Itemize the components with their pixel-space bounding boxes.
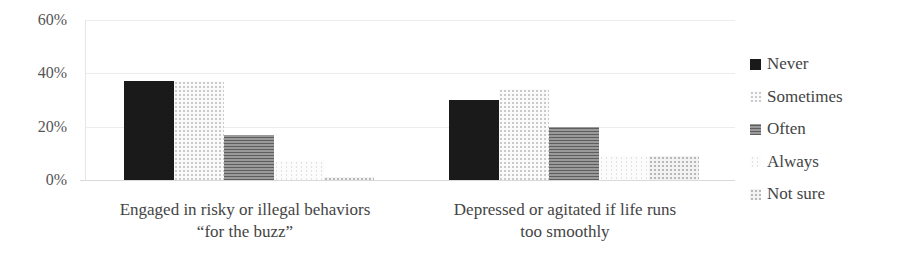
bar-always-group-2 xyxy=(599,156,649,180)
bar-often-group-2 xyxy=(549,127,599,180)
legend-label: Always xyxy=(767,152,819,172)
legend: Never Sometimes Often Always Not sure xyxy=(750,48,843,211)
bar-sometimes-group-1 xyxy=(174,81,224,180)
gridline-40 xyxy=(85,73,735,74)
x-category-label-1-line2: “for the buzz” xyxy=(80,221,410,243)
legend-item-not-sure: Not sure xyxy=(750,178,843,211)
legend-label: Never xyxy=(767,54,809,74)
x-category-label-2-line2: too smoothly xyxy=(400,221,730,243)
y-tick-0: 0% xyxy=(7,172,67,188)
x-category-label-1: Engaged in risky or illegal behaviors “f… xyxy=(80,199,410,243)
gridline-60 xyxy=(85,20,735,21)
x-category-label-2-line1: Depressed or agitated if life runs xyxy=(400,199,730,221)
legend-item-sometimes: Sometimes xyxy=(750,81,843,114)
legend-label: Not sure xyxy=(767,184,825,204)
x-category-label-1-line1: Engaged in risky or illegal behaviors xyxy=(80,199,410,221)
legend-swatch-sometimes xyxy=(750,91,761,102)
legend-item-never: Never xyxy=(750,48,843,81)
legend-item-often: Often xyxy=(750,113,843,146)
x-category-label-2: Depressed or agitated if life runs too s… xyxy=(400,199,730,243)
legend-swatch-always xyxy=(750,156,761,167)
y-tick-20: 20% xyxy=(7,119,67,135)
bar-always-group-1 xyxy=(274,161,324,180)
bar-sometimes-group-2 xyxy=(499,89,549,180)
y-tick-60: 60% xyxy=(7,12,67,28)
bar-not-sure-group-1 xyxy=(324,177,374,180)
legend-label: Sometimes xyxy=(767,87,843,107)
legend-item-always: Always xyxy=(750,146,843,179)
bar-chart: 60% 40% 20% 0% Engaged in risky or illeg… xyxy=(0,0,899,258)
legend-swatch-not-sure xyxy=(750,189,761,200)
y-axis xyxy=(85,20,86,180)
bar-not-sure-group-2 xyxy=(649,156,699,180)
bar-often-group-1 xyxy=(224,135,274,180)
legend-swatch-often xyxy=(750,124,761,135)
legend-label: Often xyxy=(767,119,806,139)
legend-swatch-never xyxy=(750,59,761,70)
x-axis xyxy=(80,180,735,181)
bar-never-group-1 xyxy=(124,81,174,180)
bar-never-group-2 xyxy=(449,100,499,180)
y-tick-40: 40% xyxy=(7,65,67,81)
